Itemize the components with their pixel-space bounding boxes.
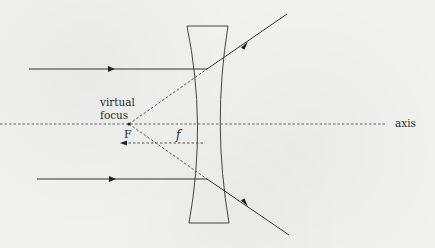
focal-length-label: f <box>176 128 180 142</box>
virtual-focus-label-line2: focus <box>100 109 128 121</box>
arrow-icon-focal-length <box>120 141 127 146</box>
ray-diagram: virtual focus F f axis <box>0 0 435 248</box>
axis-label: axis <box>395 117 416 129</box>
focal-point-label: F <box>124 128 132 141</box>
arrow-icon-bottom-incident <box>109 176 116 182</box>
virtual-focus-point <box>127 122 130 125</box>
virtual-extension-top <box>129 69 207 124</box>
arrow-icon-top-incident <box>108 66 115 72</box>
virtual-focus-label-line1: virtual <box>100 96 135 108</box>
refracted-ray-bottom <box>207 179 289 235</box>
concave-lens <box>187 26 229 223</box>
diagram-graphics <box>0 0 435 248</box>
virtual-extension-bottom <box>129 124 207 179</box>
refracted-ray-top <box>207 14 287 69</box>
